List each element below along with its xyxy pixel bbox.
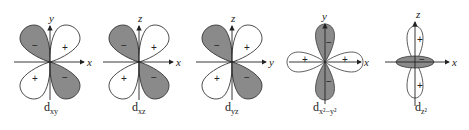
x-axis-label: x (363, 56, 369, 68)
panel-dxy: x y − + + − (14, 12, 92, 104)
panel-dyz: y z − + + − (196, 12, 274, 104)
orbital-subscript: xz (138, 107, 146, 116)
sign-positive: + (342, 54, 348, 65)
orbital-subscript: x²−y² (319, 107, 336, 116)
sign-positive: + (214, 73, 220, 84)
x-axis-label: x (175, 56, 181, 68)
sign-positive: + (62, 42, 68, 53)
caption-dxz: dxz (132, 100, 146, 116)
sign-negative: − (244, 72, 250, 83)
x-axis-label: x (86, 56, 92, 68)
sign-negative: − (121, 40, 127, 51)
y-axis-label: y (268, 56, 274, 68)
y-axis-label: y (321, 10, 327, 22)
caption-dx2-y2: dx²−y² (313, 100, 336, 116)
x-axis-label: x (451, 56, 457, 68)
caption-dyz: dyz (225, 100, 239, 116)
sign-negative: − (151, 72, 157, 83)
panel-dz2: x z + + − (385, 8, 457, 106)
z-axis-label: z (137, 12, 143, 24)
sign-positive: + (302, 54, 308, 65)
y-axis-label: y (48, 12, 54, 24)
sign-positive: + (121, 73, 127, 84)
panel-dxz: x z − + + − (103, 12, 181, 104)
sign-positive: + (244, 42, 250, 53)
orbital-subscript: z² (421, 107, 427, 116)
sign-negative: − (214, 40, 220, 51)
sign-negative: − (326, 37, 332, 48)
panel-dx2-y2: x y − − + + (287, 10, 369, 104)
sign-negative: − (419, 54, 425, 65)
sign-positive: + (417, 80, 423, 91)
sign-positive: + (151, 42, 157, 53)
caption-dxy: dxy (44, 100, 58, 116)
sign-negative: − (326, 76, 332, 87)
sign-positive: + (32, 73, 38, 84)
orbital-subscript: yz (231, 107, 239, 116)
sign-negative: − (62, 72, 68, 83)
z-axis-label: z (415, 8, 421, 20)
caption-dz2: dz² (415, 100, 427, 116)
sign-negative: − (32, 40, 38, 51)
sign-positive: + (417, 34, 423, 45)
z-axis-label: z (230, 12, 236, 24)
orbital-subscript: xy (50, 107, 58, 116)
